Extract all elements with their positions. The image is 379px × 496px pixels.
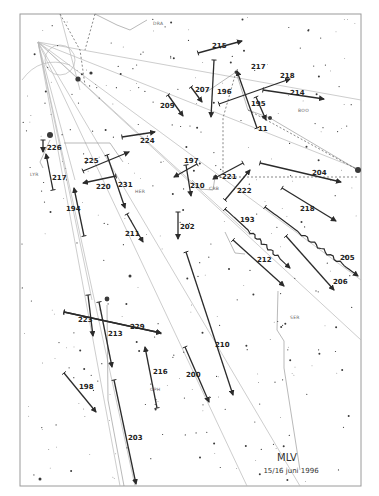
star: [252, 293, 254, 295]
star: [256, 214, 257, 215]
constellation-label: LYR: [30, 172, 39, 177]
star: [284, 323, 286, 325]
star: [277, 321, 278, 322]
star: [172, 357, 173, 358]
star: [58, 342, 59, 343]
star: [346, 126, 347, 127]
star: [143, 52, 144, 53]
star: [282, 208, 283, 209]
meteor-label: 203: [128, 434, 143, 442]
star: [113, 104, 114, 105]
star: [273, 444, 274, 445]
star: [108, 303, 109, 304]
star: [191, 312, 192, 313]
star: [322, 127, 323, 128]
star: [88, 171, 89, 172]
star: [224, 221, 225, 222]
meteor-label: 215: [212, 42, 227, 50]
star: [218, 397, 219, 398]
star: [162, 434, 163, 435]
star: [318, 159, 320, 161]
star: [347, 19, 348, 20]
star: [336, 31, 337, 32]
star: [188, 29, 189, 30]
star: [188, 40, 189, 41]
star: [213, 102, 215, 104]
star: [313, 66, 314, 67]
star: [202, 332, 204, 334]
constellation-label: HER: [135, 189, 145, 194]
star: [306, 146, 308, 148]
star: [150, 384, 151, 385]
star: [99, 157, 100, 158]
star: [243, 285, 244, 286]
star: [339, 86, 340, 87]
meteor-label: 193: [240, 216, 255, 224]
star: [316, 93, 318, 95]
star: [327, 263, 328, 264]
star: [41, 427, 42, 428]
star: [202, 404, 203, 405]
star: [30, 122, 31, 123]
star: [295, 367, 296, 368]
star: [243, 50, 245, 52]
star: [219, 325, 220, 326]
star: [71, 94, 72, 95]
star: [321, 131, 322, 132]
star: [82, 202, 83, 203]
star: [210, 243, 211, 244]
star: [294, 375, 295, 376]
constellation-label: DRA: [153, 21, 164, 26]
meteor-label: 213: [108, 330, 123, 338]
star: [303, 101, 304, 102]
star: [349, 275, 350, 276]
star: [270, 339, 271, 340]
star: [110, 394, 111, 395]
star: [150, 458, 151, 459]
star: [109, 420, 110, 421]
star: [118, 66, 119, 67]
star: [242, 19, 244, 21]
star: [42, 363, 43, 364]
star: [55, 358, 56, 359]
star: [199, 162, 201, 164]
star: [191, 305, 192, 306]
star: [325, 65, 326, 66]
chart-frame: [20, 14, 361, 486]
star: [45, 233, 46, 234]
star: [160, 162, 161, 163]
meteor-label: 217: [52, 174, 67, 182]
star: [114, 478, 115, 479]
meteor-chart: 2092152071962171952182142262172242252202…: [0, 0, 379, 496]
star: [138, 287, 139, 288]
star: [123, 244, 124, 245]
meteor-label: 194: [66, 205, 81, 213]
star: [136, 64, 137, 65]
star: [222, 83, 223, 84]
star: [250, 230, 251, 231]
star: [177, 89, 178, 90]
constellation-label: CRB: [209, 186, 219, 191]
star: [335, 351, 336, 352]
star: [218, 376, 219, 377]
star: [47, 67, 48, 68]
star: [216, 376, 217, 377]
star: [300, 48, 301, 49]
constellation-label: OPH: [150, 387, 161, 392]
star: [351, 307, 352, 308]
star: [44, 202, 45, 203]
star: [42, 429, 43, 430]
star: [206, 432, 207, 433]
star: [69, 367, 70, 368]
star: [172, 124, 173, 125]
star: [287, 349, 288, 350]
star: [132, 68, 133, 69]
observation-date: 15/16 juni 1996: [263, 467, 319, 475]
star: [30, 167, 31, 168]
star: [344, 104, 345, 105]
star: [42, 30, 43, 31]
star: [337, 131, 338, 132]
star: [193, 170, 195, 172]
star: [182, 209, 184, 211]
star: [256, 179, 257, 180]
